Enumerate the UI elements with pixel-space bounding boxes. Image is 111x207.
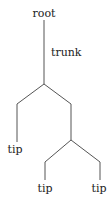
edge-mid-tip xyxy=(45,140,71,180)
edge-right-branch xyxy=(44,84,71,140)
edge-left-tip xyxy=(17,84,44,142)
tip-label-right: tip xyxy=(92,182,107,195)
edge-right-tip xyxy=(71,140,100,180)
root-label: root xyxy=(33,7,57,20)
tree-diagram: root trunk tip tip tip xyxy=(0,0,111,207)
tip-label-left: tip xyxy=(8,143,23,156)
tip-label-mid: tip xyxy=(38,182,53,195)
trunk-label: trunk xyxy=(51,46,82,59)
